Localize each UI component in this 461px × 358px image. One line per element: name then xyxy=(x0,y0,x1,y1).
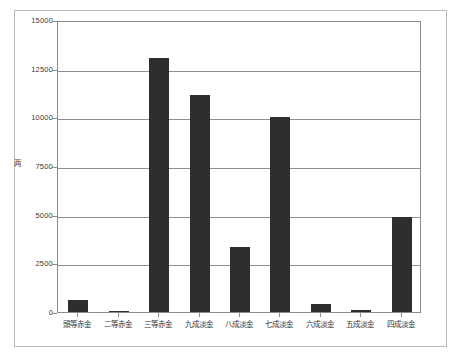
y-tick-label: 15000 xyxy=(31,17,53,25)
y-tick-label: 7500 xyxy=(36,163,54,171)
x-tick-label: 頭等赤金 xyxy=(57,320,97,330)
plot-area xyxy=(57,21,421,313)
y-tick-mark xyxy=(52,70,57,71)
y-tick-label: 2500 xyxy=(36,260,54,268)
y-tick-mark xyxy=(52,21,57,22)
bar xyxy=(190,95,210,312)
x-tick-label: 三等赤金 xyxy=(138,320,178,330)
y-tick-mark xyxy=(52,118,57,119)
bar xyxy=(392,217,412,312)
bar-chart-figure: 两 0250050007500100001250015000 頭等赤金二等赤金三… xyxy=(0,0,461,358)
x-tick-label: 四成淡金 xyxy=(381,320,421,330)
x-tick-mark xyxy=(279,313,280,317)
y-tick-label: 10000 xyxy=(31,114,53,122)
y-tick-label: 12500 xyxy=(31,66,53,74)
y-tick-label: 5000 xyxy=(36,212,54,220)
x-tick-mark xyxy=(199,313,200,317)
y-tick-mark xyxy=(52,167,57,168)
y-tick-mark xyxy=(52,216,57,217)
x-tick-label: 五成淡金 xyxy=(340,320,380,330)
x-tick-mark xyxy=(320,313,321,317)
y-tick-mark xyxy=(52,264,57,265)
bar xyxy=(68,300,88,312)
y-axis-tick-labels: 0250050007500100001250015000 xyxy=(0,0,53,358)
x-tick-mark xyxy=(360,313,361,317)
x-tick-mark xyxy=(158,313,159,317)
bar xyxy=(311,304,331,312)
x-tick-label: 七成淡金 xyxy=(259,320,299,330)
x-tick-mark xyxy=(118,313,119,317)
x-tick-mark xyxy=(401,313,402,317)
x-tick-mark xyxy=(239,313,240,317)
x-tick-label: 二等赤金 xyxy=(97,320,137,330)
bars-layer xyxy=(58,22,420,312)
y-tick-mark xyxy=(52,313,57,314)
x-tick-mark xyxy=(77,313,78,317)
bar xyxy=(270,117,290,312)
bar xyxy=(230,247,250,312)
bar xyxy=(109,311,129,312)
x-tick-label: 九成淡金 xyxy=(178,320,218,330)
bar xyxy=(149,58,169,312)
x-tick-label: 六成淡金 xyxy=(300,320,340,330)
x-tick-label: 八成淡金 xyxy=(219,320,259,330)
bar xyxy=(351,310,371,312)
